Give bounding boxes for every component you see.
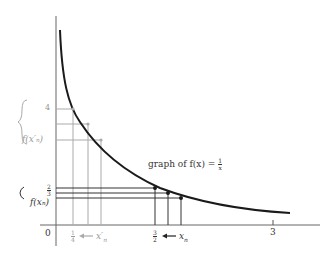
x-label-zero: 0 bbox=[45, 229, 51, 238]
x-label-xn-prime: x′n bbox=[96, 232, 107, 243]
curve-label: graph of f(x) = 1x bbox=[148, 158, 222, 171]
x-label-three: 3 bbox=[270, 228, 276, 237]
upper-grid-lines bbox=[56, 109, 101, 225]
diagram-canvas bbox=[0, 0, 330, 254]
y-label-four: 4 bbox=[45, 104, 50, 112]
x-label-quarter: 14 bbox=[71, 230, 75, 243]
y-label-f-xn-prime: f(x′ₙ) bbox=[22, 135, 43, 144]
curve-one-over-x bbox=[60, 30, 290, 213]
curve-label-den: x bbox=[218, 165, 222, 171]
y-label-f-xn: f(xₙ) bbox=[30, 198, 49, 207]
three-halves-den: 2 bbox=[153, 237, 157, 243]
x-label-three-halves: 32 bbox=[153, 230, 157, 243]
lower-grid-lines bbox=[56, 188, 181, 225]
y-label-two-thirds: 23 bbox=[47, 184, 51, 197]
quarter-den: 4 bbox=[71, 237, 75, 243]
lower-brace-icon bbox=[20, 187, 24, 199]
x-label-xn: xn bbox=[179, 232, 188, 243]
curve-label-prefix: graph of f(x) = bbox=[148, 159, 218, 169]
arrow-icons bbox=[79, 234, 176, 239]
